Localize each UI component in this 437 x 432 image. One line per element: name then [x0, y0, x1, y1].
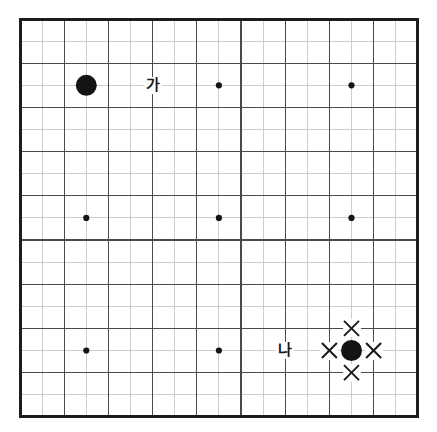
go-board-diagram: 가나 — [0, 0, 437, 432]
liberty-mark-down — [343, 364, 361, 382]
star-point — [348, 82, 354, 88]
stone-top-left — [76, 75, 97, 96]
go-board-canvas — [0, 0, 437, 432]
star-point — [83, 347, 89, 353]
star-point — [216, 215, 222, 221]
star-point — [348, 215, 354, 221]
label-ga: 가 — [144, 77, 162, 94]
liberty-mark-right — [365, 342, 383, 360]
liberty-mark-up — [343, 319, 361, 337]
star-point — [216, 347, 222, 353]
liberty-mark-left — [320, 342, 338, 360]
star-point — [216, 82, 222, 88]
stone-bottom-right — [341, 340, 362, 361]
star-point — [83, 215, 89, 221]
label-na: 나 — [276, 342, 294, 359]
